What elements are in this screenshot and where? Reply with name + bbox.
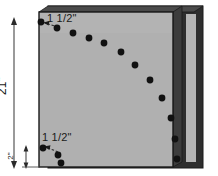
drill-point bbox=[101, 40, 108, 47]
height-dim-arrow-bottom bbox=[11, 161, 17, 169]
drill-point bbox=[174, 156, 181, 163]
height-dim-arrow-top bbox=[11, 17, 17, 25]
panel-face-group bbox=[39, 12, 173, 167]
drill-point bbox=[172, 136, 179, 143]
drill-point bbox=[147, 77, 154, 84]
overall-height-label: 21" bbox=[0, 77, 8, 95]
drill-point bbox=[132, 62, 139, 69]
overall-height-dimension bbox=[11, 17, 17, 169]
panel-right-edge-band bbox=[173, 6, 182, 167]
drill-point bbox=[58, 160, 65, 167]
bottom-offset-dimension bbox=[22, 145, 40, 169]
drill-point bbox=[118, 49, 125, 56]
drill-point bbox=[159, 95, 166, 102]
drill-point bbox=[40, 145, 47, 152]
drill-point bbox=[55, 152, 62, 159]
offset-dim-arrow-bottom bbox=[24, 163, 29, 170]
spine-strip-light bbox=[186, 14, 196, 162]
drill-point bbox=[54, 25, 61, 32]
drill-point bbox=[168, 115, 175, 122]
drill-point bbox=[70, 30, 77, 37]
bottom-inset-label: 1 1/2" bbox=[42, 132, 72, 143]
panel-layout-figure: 1 1/2" 1 1/2" 21" 2" bbox=[0, 0, 218, 176]
bottom-offset-label: 2" bbox=[7, 152, 15, 160]
offset-dim-arrow-top bbox=[24, 145, 29, 152]
drill-point bbox=[86, 35, 93, 42]
diagram-canvas bbox=[0, 0, 218, 176]
panel-face bbox=[39, 12, 173, 167]
top-inset-label: 1 1/2" bbox=[47, 13, 77, 24]
drill-point bbox=[38, 19, 45, 26]
